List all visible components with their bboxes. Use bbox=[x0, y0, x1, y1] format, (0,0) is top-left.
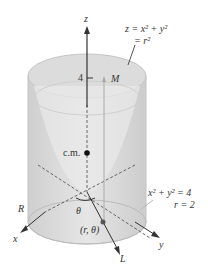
point-label: (r, θ) bbox=[80, 224, 100, 236]
y-axis-label: y bbox=[158, 239, 164, 250]
center-of-mass-point bbox=[84, 150, 90, 156]
region-label: R bbox=[17, 203, 24, 214]
center-of-mass-label: c.m. bbox=[63, 147, 80, 158]
theta-label: θ bbox=[76, 205, 81, 216]
cylinder-label: x² + y² = 4 bbox=[147, 187, 191, 198]
point-r-theta bbox=[101, 220, 106, 225]
x-axis-label: x bbox=[12, 233, 18, 244]
solid-region-diagram: z x y L z = x² + y² = r² x² + y² = 4 r =… bbox=[0, 0, 219, 269]
z-axis-label: z bbox=[83, 13, 88, 24]
paraboloid-label-2: = r² bbox=[134, 35, 151, 46]
tick-4-label: 4 bbox=[78, 72, 83, 83]
cylinder-label-2: r = 2 bbox=[174, 199, 195, 210]
paraboloid-label: z = x² + y² bbox=[124, 23, 168, 34]
l-axis-label: L bbox=[119, 253, 126, 264]
mass-label: M bbox=[110, 73, 120, 84]
